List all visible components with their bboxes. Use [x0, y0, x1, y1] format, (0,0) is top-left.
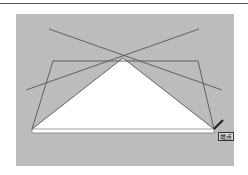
white-triangle [32, 58, 214, 129]
snap-tooltip: 端点 [218, 132, 234, 141]
cad-drawing[interactable] [0, 0, 248, 175]
base-bar [32, 129, 214, 133]
pencil-cursor-icon [214, 120, 223, 129]
